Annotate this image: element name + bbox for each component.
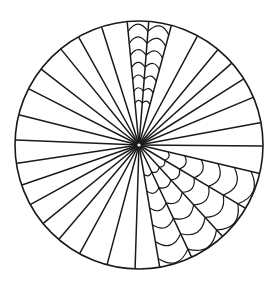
web-arc: [182, 178, 194, 193]
web-arc: [209, 164, 221, 187]
spoke-line: [139, 50, 217, 145]
web-arc: [171, 169, 180, 180]
web-arc: [165, 152, 169, 160]
web-arc: [144, 172, 152, 176]
web-arc: [238, 171, 255, 203]
web-wheel-svg: [0, 0, 276, 282]
web-arc: [223, 167, 237, 195]
web-arc: [155, 234, 180, 246]
web-arc: [145, 63, 159, 69]
web-arc: [152, 167, 159, 172]
web-arc: [130, 50, 146, 56]
web-arc: [217, 204, 239, 230]
web-arc: [173, 205, 193, 219]
spoke-line: [139, 98, 253, 145]
web-arc: [166, 192, 182, 203]
spoke-line: [61, 50, 139, 145]
spoke-line: [139, 145, 262, 146]
web-arc: [142, 101, 150, 104]
web-arc: [147, 188, 159, 194]
web-arc: [159, 180, 171, 188]
spoke-line: [139, 64, 231, 145]
web-arc: [144, 76, 156, 81]
center-hub: [137, 143, 140, 146]
spoke-line: [135, 145, 139, 268]
web-arc: [194, 186, 209, 204]
web-arc: [146, 51, 162, 58]
spoke-line: [139, 145, 259, 173]
spoke-line: [42, 70, 139, 145]
web-arc: [134, 88, 143, 92]
web-arc: [132, 62, 146, 67]
web-arc: [147, 38, 166, 46]
web-arc: [179, 156, 186, 169]
web-arc: [143, 89, 153, 93]
web-arc: [150, 203, 166, 211]
web-arc: [153, 218, 174, 228]
web-arc: [128, 24, 148, 31]
web-arc: [129, 37, 147, 44]
web-arc: [148, 26, 169, 35]
web-arc: [194, 160, 203, 178]
web-arc: [135, 100, 142, 103]
spoke-line: [139, 37, 197, 145]
web-arc: [159, 160, 165, 167]
web-arc: [133, 75, 144, 79]
web-arc: [188, 230, 217, 250]
web-arc: [181, 217, 205, 234]
spoke-line: [139, 145, 245, 208]
web-wheel-figure: [0, 0, 276, 282]
